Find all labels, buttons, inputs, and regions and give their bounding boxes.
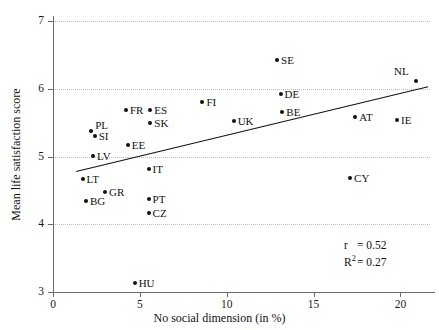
scatter-chart-figure: LTBGPLSILVGRFREEHUITPTCZSKESFIUKSEDEBECY… bbox=[0, 0, 439, 330]
x-axis-line bbox=[48, 292, 435, 293]
data-point-label: DE bbox=[285, 89, 300, 100]
data-point bbox=[133, 281, 137, 285]
data-point-label: CZ bbox=[153, 208, 167, 219]
x-axis-tick bbox=[227, 292, 228, 297]
data-point bbox=[147, 211, 151, 215]
data-point-label: LV bbox=[97, 151, 111, 162]
y-axis-tick bbox=[48, 89, 53, 90]
data-point-label: NL bbox=[394, 66, 409, 77]
y-axis-tick-label: 6 bbox=[20, 83, 44, 95]
data-point bbox=[148, 108, 152, 112]
data-point-label: PL bbox=[95, 120, 108, 131]
data-point bbox=[200, 100, 204, 104]
r-squared-row: R2= 0.27 bbox=[344, 252, 387, 269]
data-point-label: IE bbox=[401, 115, 411, 126]
r-value: = 0.52 bbox=[357, 239, 387, 251]
data-point-label: HU bbox=[139, 278, 155, 289]
data-point-label: CY bbox=[354, 173, 369, 184]
data-point-label: GR bbox=[109, 187, 124, 198]
data-point bbox=[348, 176, 352, 180]
data-point bbox=[147, 167, 151, 171]
data-point bbox=[124, 108, 128, 112]
statistics-annotation: r= 0.52 R2= 0.27 bbox=[344, 238, 387, 269]
data-point-label: BG bbox=[90, 196, 105, 207]
x-axis-tick bbox=[314, 292, 315, 297]
data-point bbox=[232, 119, 236, 123]
r-symbol: r bbox=[344, 238, 357, 252]
data-point bbox=[279, 92, 283, 96]
data-point bbox=[93, 134, 97, 138]
data-point-label: EE bbox=[132, 140, 145, 151]
data-point-label: UK bbox=[238, 116, 254, 127]
x-axis-tick-label: 5 bbox=[125, 298, 155, 310]
data-point bbox=[89, 129, 93, 133]
x-axis-tick-label: 0 bbox=[38, 298, 68, 310]
y-axis-tick-label: 4 bbox=[20, 218, 44, 230]
data-point bbox=[280, 110, 284, 114]
data-point-label: LT bbox=[87, 174, 99, 185]
trend-line bbox=[76, 86, 428, 172]
correlation-row: r= 0.52 bbox=[344, 238, 387, 252]
data-point-label: FI bbox=[206, 97, 216, 108]
y-axis-tick-label: 7 bbox=[20, 15, 44, 27]
data-point bbox=[148, 121, 152, 125]
gridline-y bbox=[53, 89, 430, 90]
data-point-label: BE bbox=[286, 107, 300, 118]
data-point bbox=[275, 58, 279, 62]
y-axis-line bbox=[53, 16, 54, 297]
x-axis-tick bbox=[53, 292, 54, 297]
data-point bbox=[126, 143, 130, 147]
x-axis-tick-label: 10 bbox=[212, 298, 242, 310]
y-axis-tick bbox=[48, 157, 53, 158]
x-axis-tick bbox=[140, 292, 141, 297]
data-point-label: ES bbox=[154, 105, 167, 116]
y-axis-tick bbox=[48, 21, 53, 22]
data-point bbox=[147, 197, 151, 201]
data-point bbox=[91, 154, 95, 158]
r-squared-symbol: R2 bbox=[344, 252, 357, 269]
x-axis-title: No social dimension (in %) bbox=[0, 312, 439, 325]
x-axis-tick-label: 20 bbox=[385, 298, 415, 310]
x-axis-tick bbox=[400, 292, 401, 297]
data-point bbox=[103, 190, 107, 194]
y-axis-tick bbox=[48, 224, 53, 225]
data-point bbox=[395, 118, 399, 122]
data-point-label: SK bbox=[154, 118, 168, 129]
data-point bbox=[84, 199, 88, 203]
data-point-label: SI bbox=[99, 131, 109, 142]
data-point-label: PT bbox=[153, 194, 166, 205]
data-point-label: SE bbox=[281, 55, 294, 66]
r-squared-value: = 0.27 bbox=[357, 256, 387, 268]
gridline-y bbox=[53, 224, 430, 225]
y-axis-tick-label: 3 bbox=[20, 286, 44, 298]
data-point bbox=[353, 115, 357, 119]
data-point-label: IT bbox=[153, 164, 163, 175]
data-point-label: FR bbox=[130, 105, 143, 116]
y-axis-tick-label: 5 bbox=[20, 151, 44, 163]
gridline-y bbox=[53, 21, 430, 22]
x-axis-tick-label: 15 bbox=[299, 298, 329, 310]
data-point-label: AT bbox=[359, 112, 372, 123]
data-point bbox=[414, 79, 418, 83]
data-point bbox=[81, 177, 85, 181]
